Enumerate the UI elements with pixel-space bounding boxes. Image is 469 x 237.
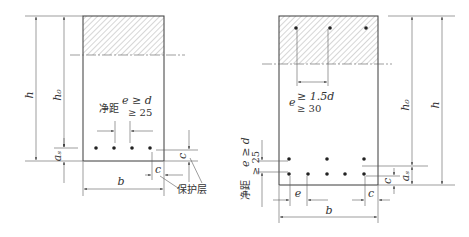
cover-label: 保护层 (177, 183, 207, 195)
top-spacing-rule-2: ≥ 30 (297, 103, 321, 114)
clear-spacing-label: 净距 (239, 180, 251, 200)
compression-zone-hatch (83, 16, 164, 55)
as-label: aₛ (51, 151, 64, 162)
compression-zone-hatch (279, 16, 378, 64)
double-row-section: e ≥ 1.5d ≥ 30 e ≥ d ≥ 25 净距 e c (239, 16, 455, 223)
rebar (362, 157, 366, 161)
clear-spacing-label: 净距 (99, 102, 119, 114)
beam-section-diagrams: h h₀ aₛ 净距 e ≥ d ≥ 25 b c (0, 0, 469, 237)
bottom-e-label: e (295, 187, 302, 200)
h-label: h (429, 101, 442, 108)
spacing-rule-1: e ≥ d (122, 94, 152, 107)
c-bottom-label: c (381, 178, 394, 184)
rebar (287, 172, 291, 176)
top-rebar (328, 26, 332, 30)
spacing-rule-2: ≥ 25 (128, 107, 152, 118)
b-label: b (325, 204, 332, 217)
rebar (325, 157, 329, 161)
b-label: b (117, 175, 124, 188)
rebar (325, 172, 329, 176)
c-side-label: c (368, 187, 374, 200)
vertical-spacing-rule-2: ≥ 25 (250, 151, 261, 175)
rebar (148, 146, 152, 150)
h-label: h (23, 91, 36, 98)
c-side-label: c (155, 163, 161, 176)
top-e-label: e (289, 96, 296, 109)
h0-label: h₀ (399, 99, 412, 111)
as-label: aₛ (399, 171, 412, 182)
rebar (287, 157, 291, 161)
c-bottom-label: c (176, 153, 189, 159)
top-rebar (364, 26, 368, 30)
top-spacing-rule-1: ≥ 1.5d (297, 90, 334, 103)
rebar (306, 172, 310, 176)
rebar (343, 172, 347, 176)
rebar (362, 172, 366, 176)
rebar (94, 146, 98, 150)
rebar (130, 146, 134, 150)
h0-label: h₀ (51, 89, 64, 101)
rebar (112, 146, 116, 150)
single-row-section: h h₀ aₛ 净距 e ≥ d ≥ 25 b c (23, 16, 207, 196)
